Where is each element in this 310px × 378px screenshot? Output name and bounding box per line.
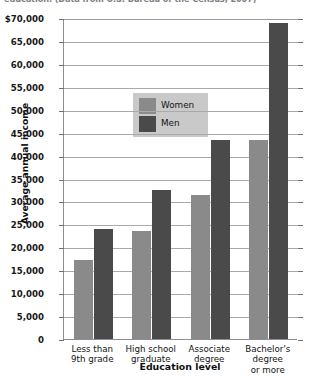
gridline (64, 42, 298, 43)
gridline (64, 88, 298, 89)
bar-women-1 (132, 231, 151, 339)
axis-tick (59, 202, 64, 203)
axis-tick (59, 180, 64, 181)
axis-tick (298, 225, 303, 226)
y-tick-label: 60,000 (0, 60, 44, 70)
bar-women-2 (191, 195, 210, 339)
axis-tick (298, 340, 303, 341)
axis-tick (298, 294, 303, 295)
axis-tick (59, 42, 64, 43)
axis-tick (298, 317, 303, 318)
plot-area: Women Men $70,00065,00060,00055,00050,00… (63, 19, 297, 340)
axis-tick (298, 180, 303, 181)
bar-women-0 (74, 260, 93, 339)
axis-tick (59, 294, 64, 295)
y-tick-label: 65,000 (0, 37, 44, 47)
axis-tick (298, 271, 303, 272)
gridline (64, 65, 298, 66)
axis-tick (59, 248, 64, 249)
bar-men-0 (94, 229, 113, 339)
chart-legend: Women Men (133, 93, 208, 137)
axis-tick (59, 271, 64, 272)
y-tick-label: 50,000 (0, 106, 44, 116)
axis-tick (298, 65, 303, 66)
y-tick-label: $70,000 (0, 14, 44, 24)
y-tick-label: 45,000 (0, 129, 44, 139)
bar-women-3 (249, 140, 268, 339)
axis-tick (59, 19, 64, 20)
y-tick-label: 20,000 (0, 243, 44, 253)
y-tick-label: 35,000 (0, 175, 44, 185)
y-tick-label: 55,000 (0, 83, 44, 93)
axis-tick (59, 88, 64, 89)
legend-label-men: Men (161, 118, 180, 128)
axis-tick (298, 88, 303, 89)
axis-tick (59, 340, 64, 341)
axis-tick (59, 225, 64, 226)
y-tick-label: 15,000 (0, 266, 44, 276)
axis-tick (59, 111, 64, 112)
gridline (64, 111, 298, 112)
axis-tick (59, 157, 64, 158)
axis-tick (298, 134, 303, 135)
y-tick-label: 25,000 (0, 220, 44, 230)
axis-tick (298, 42, 303, 43)
bar-men-1 (152, 190, 171, 339)
y-tick-label: 0 (0, 335, 44, 345)
gridline (64, 134, 298, 135)
y-tick-label: 30,000 (0, 197, 44, 207)
axis-tick (298, 19, 303, 20)
legend-label-women: Women (161, 100, 194, 110)
bar-men-2 (211, 140, 230, 339)
axis-tick (298, 202, 303, 203)
axis-tick (298, 248, 303, 249)
axis-tick (298, 157, 303, 158)
bar-chart: Average annual income Education level Wo… (0, 0, 310, 378)
y-tick-label: 10,000 (0, 289, 44, 299)
y-tick-label: 40,000 (0, 152, 44, 162)
axis-tick (298, 111, 303, 112)
y-tick-label: 5,000 (0, 312, 44, 322)
axis-tick (59, 134, 64, 135)
axis-tick (59, 65, 64, 66)
bar-men-3 (269, 23, 288, 339)
legend-swatch-men (139, 116, 156, 132)
gridline (64, 19, 298, 20)
x-category-label: Bachelor's degree or more (233, 344, 304, 375)
axis-tick (59, 317, 64, 318)
